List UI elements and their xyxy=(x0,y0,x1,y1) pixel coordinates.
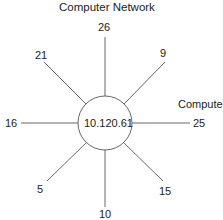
node-label-9: 9 xyxy=(160,47,166,59)
spoke-5 xyxy=(47,142,87,181)
node-label-21: 21 xyxy=(35,49,47,61)
node-label-26: 26 xyxy=(98,21,110,33)
network-diagram xyxy=(0,0,223,220)
diagram-title: Computer Network xyxy=(59,1,155,13)
center-node-label: 10.120.61 xyxy=(84,117,133,129)
spoke-9 xyxy=(124,62,165,104)
spoke-21 xyxy=(44,62,86,104)
side-label: Computer xyxy=(178,98,223,110)
node-label-25: 25 xyxy=(193,117,205,129)
node-label-10: 10 xyxy=(99,208,111,220)
node-label-5: 5 xyxy=(37,183,43,195)
node-label-16: 16 xyxy=(5,117,17,129)
node-label-15: 15 xyxy=(159,185,171,197)
spoke-15 xyxy=(123,142,163,181)
